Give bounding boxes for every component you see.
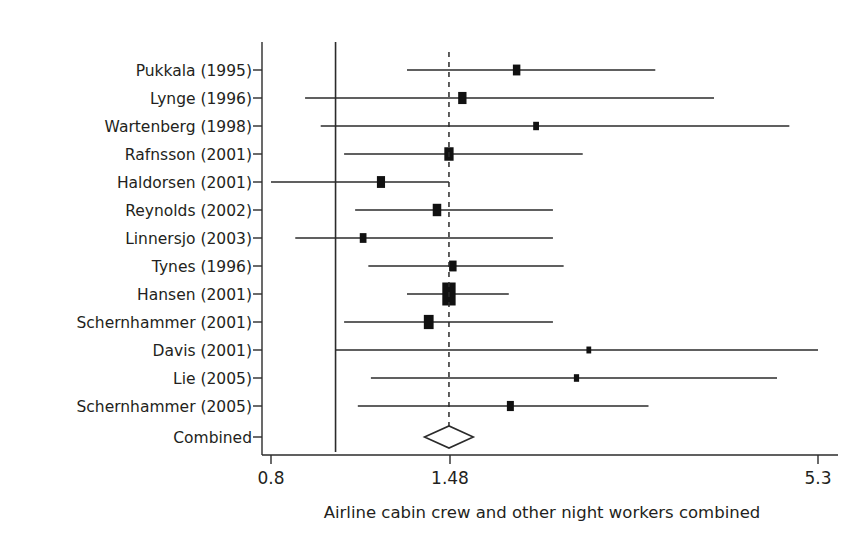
point-estimate-marker <box>360 233 367 243</box>
study-label: Wartenberg (1998) <box>105 118 252 136</box>
study-label: Reynolds (2002) <box>125 202 252 220</box>
point-estimate-marker <box>586 347 591 354</box>
point-estimate-marker <box>424 315 434 329</box>
study-label: Hansen (2001) <box>137 286 252 304</box>
forest-plot-canvas: Pukkala (1995)Lynge (1996)Wartenberg (19… <box>0 0 861 538</box>
x-tick-label: 1.48 <box>431 468 469 488</box>
study-label: Rafnsson (2001) <box>125 146 252 164</box>
row-tick-marks <box>253 70 262 406</box>
combined-label: Combined <box>173 429 252 447</box>
confidence-interval-lines <box>271 70 818 406</box>
study-label: Lie (2005) <box>173 370 252 388</box>
point-estimate-marker <box>377 176 385 188</box>
point-estimate-marker <box>433 204 442 216</box>
x-tick-label: 0.8 <box>257 468 284 488</box>
study-label: Lynge (1996) <box>150 90 252 108</box>
study-label: Linnersjo (2003) <box>125 230 252 248</box>
point-estimate-marker <box>533 122 539 130</box>
x-axis-title: Airline cabin crew and other night worke… <box>324 503 761 522</box>
study-label: Davis (2001) <box>153 342 252 360</box>
point-estimate-marker <box>507 401 514 411</box>
study-label: Schernhammer (2001) <box>76 314 252 332</box>
point-estimate-marker <box>513 65 520 76</box>
x-axis-tick-labels: 0.81.485.3 <box>257 468 831 488</box>
point-estimate-marker <box>449 261 456 272</box>
study-label: Haldorsen (2001) <box>117 174 252 192</box>
point-estimate-marker <box>458 92 466 104</box>
study-label: Pukkala (1995) <box>136 62 252 80</box>
x-axis-ticks <box>271 455 818 464</box>
forest-plot-figure: Pukkala (1995)Lynge (1996)Wartenberg (19… <box>0 0 861 538</box>
study-label-column: Pukkala (1995)Lynge (1996)Wartenberg (19… <box>76 62 252 416</box>
x-tick-label: 5.3 <box>804 468 831 488</box>
study-label: Schernhammer (2005) <box>76 398 252 416</box>
combined-diamond <box>425 426 474 448</box>
study-label: Tynes (1996) <box>151 258 252 276</box>
point-estimate-marker <box>574 374 579 382</box>
